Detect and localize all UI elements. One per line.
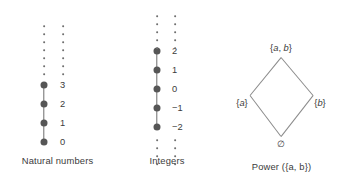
vertical-ellipsis-dot-above [62, 33, 64, 35]
chain-node [41, 139, 48, 146]
vertical-ellipsis-dot-above [43, 65, 45, 67]
chain-connector-line [43, 85, 44, 142]
chain-node [41, 101, 48, 108]
chain-node-label: 2 [60, 99, 65, 109]
vertical-ellipsis-dot-above [62, 25, 64, 27]
vertical-ellipsis-dot-above [174, 31, 176, 33]
chain-node [154, 105, 161, 112]
panel-natural-numbers: 3210 Natural numbers [0, 0, 115, 183]
chain-node-label: 3 [60, 80, 65, 90]
chain-node [41, 82, 48, 89]
vertical-ellipsis-dot-above [156, 39, 158, 41]
caption-natural-numbers: Natural numbers [0, 155, 115, 166]
vertical-ellipsis-dot-above [156, 15, 158, 17]
vertical-ellipsis-dot-above [43, 73, 45, 75]
chain-node-label: 0 [172, 84, 177, 94]
chain-node-label: 1 [60, 118, 65, 128]
lattice-power-set: {a, b} {a} {b} ∅ [220, 0, 343, 183]
vertical-ellipsis-dot-above [156, 23, 158, 25]
panel-power-set: {a, b} {a} {b} ∅ Power ({a, b}) [220, 0, 343, 183]
panel-integers: 210−1−2 Integers [112, 0, 222, 183]
lattice-edge-top-right [281, 57, 314, 96]
vertical-ellipsis-dot-above [43, 49, 45, 51]
vertical-ellipsis-dot-above [62, 49, 64, 51]
chain-node-label: −2 [172, 122, 183, 132]
vertical-ellipsis-dot-above [62, 65, 64, 67]
caption-integers: Integers [112, 155, 222, 166]
vertical-ellipsis-dot-above [62, 73, 64, 75]
figure-three-order-diagrams: 3210 Natural numbers 210−1−2 Integers {a… [0, 0, 343, 183]
lattice-edge-top-left [250, 57, 282, 96]
chain-node [154, 124, 161, 131]
vertical-ellipsis-dot-above [43, 33, 45, 35]
lattice-node-bottom: ∅ [277, 138, 285, 149]
chain-node [41, 120, 48, 127]
lattice-node-left: {a} [236, 97, 248, 108]
vertical-ellipsis-dot-above [62, 57, 64, 59]
vertical-ellipsis-dot-below [156, 139, 158, 141]
chain-node-label: 1 [172, 65, 177, 75]
vertical-ellipsis-dot-below [156, 147, 158, 149]
chain-node [154, 86, 161, 93]
caption-power-set: Power ({a, b}) [220, 161, 343, 172]
lattice-node-top: {a, b} [270, 42, 292, 53]
chain-node-label: −1 [172, 103, 183, 113]
vertical-ellipsis-dot-above [43, 25, 45, 27]
vertical-ellipsis-dot-above [43, 57, 45, 59]
lattice-edge-left-bottom [250, 95, 282, 137]
chain-node [154, 67, 161, 74]
lattice-node-right: {b} [314, 97, 326, 108]
lattice-edge-right-bottom [281, 95, 314, 137]
vertical-ellipsis-dot-above [62, 41, 64, 43]
vertical-ellipsis-dot-below [174, 147, 176, 149]
vertical-ellipsis-dot-above [174, 47, 176, 49]
vertical-ellipsis-dot-above [156, 47, 158, 49]
vertical-ellipsis-dot-above [174, 39, 176, 41]
vertical-ellipsis-dot-above [156, 31, 158, 33]
vertical-ellipsis-dot-above [174, 23, 176, 25]
vertical-ellipsis-dot-above [43, 41, 45, 43]
chain-node-label: 0 [60, 137, 65, 147]
vertical-ellipsis-dot-above [174, 15, 176, 17]
vertical-ellipsis-dot-below [174, 139, 176, 141]
